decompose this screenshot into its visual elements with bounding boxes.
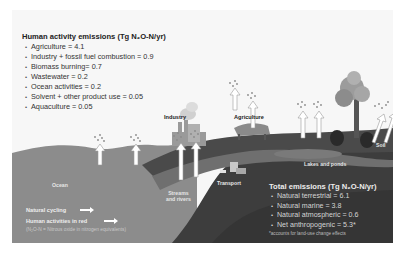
legend-natural-cycling: Natural cycling	[26, 204, 126, 215]
total-emissions-footnote: *accounts for land-use change effects	[269, 231, 376, 236]
lake-shape	[274, 149, 342, 159]
label-industry: Industry	[164, 114, 186, 120]
list-item: Natural terrestrial = 6.1	[269, 192, 376, 202]
label-streams-and-rivers: Streams and rivers	[166, 190, 191, 202]
total-emissions-title: Total emissions (Tg N₂O-N/yr)	[269, 182, 376, 191]
label-lakes-and-ponds: Lakes and ponds	[304, 161, 346, 167]
list-item: Natural marine = 3.8	[269, 202, 376, 212]
list-item: Aquaculture = 0.05	[22, 102, 166, 112]
label-agriculture: Agriculture	[234, 114, 264, 120]
legend: Natural cycling Human activities in red …	[26, 204, 126, 232]
label-soil: Soil	[376, 142, 386, 148]
human-activity-title: Human activity emissions (Tg N₂O-N/yr)	[22, 32, 166, 41]
list-item: Biomass burning= 0.7	[22, 62, 166, 72]
list-item: Agriculture = 4.1	[22, 42, 166, 52]
list-item: Ocean activities = 0.2	[22, 82, 166, 92]
legend-note: (N₂O-N = Nitrous oxide in nitrogen equiv…	[26, 227, 126, 232]
list-item: Net anthropogenic = 5.3*	[269, 221, 376, 231]
total-emissions-panel: Total emissions (Tg N₂O-N/yr) Natural te…	[269, 182, 376, 236]
n2o-emissions-figure: Human activity emissions (Tg N₂O-N/yr) A…	[12, 10, 393, 243]
label-transport: Transport	[217, 180, 241, 186]
label-ocean: Ocean	[52, 182, 68, 188]
list-item: Natural atmospheric = 0.6	[269, 211, 376, 221]
legend-human-activities: Human activities in red	[26, 215, 126, 226]
human-activity-panel: Human activity emissions (Tg N₂O-N/yr) A…	[22, 32, 166, 112]
human-activity-list: Agriculture = 4.1 Industry + fossil fuel…	[22, 42, 166, 112]
total-emissions-list: Natural terrestrial = 6.1 Natural marine…	[269, 192, 376, 230]
list-item: Industry + fossil fuel combustion = 0.9	[22, 52, 166, 62]
list-item: Solvent + other product use = 0.05	[22, 92, 166, 102]
list-item: Wastewater = 0.2	[22, 72, 166, 82]
